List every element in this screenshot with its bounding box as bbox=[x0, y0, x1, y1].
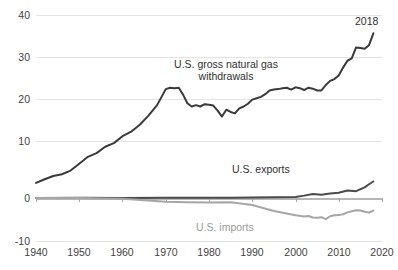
series-line-exports bbox=[36, 182, 373, 198]
series-label-exports: U.S. exports bbox=[232, 163, 290, 175]
series-label-withdrawals-line2: withdrawals bbox=[156, 70, 296, 82]
series-line-imports bbox=[36, 198, 373, 219]
annotation-end-year: 2018 bbox=[355, 15, 378, 27]
series-label-withdrawals-line1: U.S. gross natural gas bbox=[156, 58, 296, 70]
series-line-withdrawals bbox=[36, 33, 373, 183]
series-label-withdrawals: U.S. gross natural gas withdrawals bbox=[156, 58, 296, 82]
series-label-imports: U.S. imports bbox=[196, 221, 254, 233]
